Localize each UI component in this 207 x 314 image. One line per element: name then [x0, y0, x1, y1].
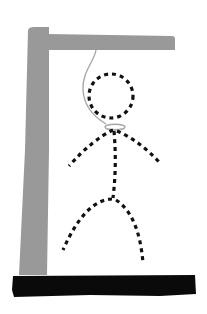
figure-right-arm	[117, 131, 160, 163]
stick-figure	[63, 74, 160, 263]
gallows-base	[12, 275, 196, 297]
figure-head	[89, 74, 133, 118]
rope	[83, 50, 106, 124]
figure-right-leg	[116, 200, 143, 263]
gallows-beam	[48, 34, 175, 50]
figure-left-leg	[63, 199, 112, 250]
gallows-post	[19, 27, 49, 275]
figure-torso	[113, 131, 115, 198]
hangman-drawing	[0, 0, 207, 314]
figure-left-arm	[69, 130, 113, 166]
noose-loop	[105, 124, 125, 130]
